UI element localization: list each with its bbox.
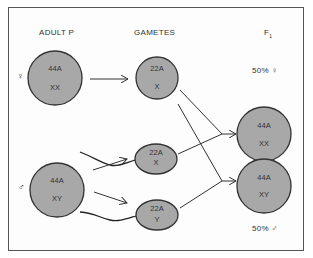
header-f1: F1	[264, 28, 272, 39]
percent-male: 50% ♂	[252, 224, 278, 233]
offspring-male-cell	[237, 159, 291, 213]
male-symbol-icon: ♂	[18, 182, 25, 192]
header-adult: ADULT P	[39, 28, 74, 37]
f1-subscript: 1	[269, 33, 272, 39]
sperm-x-sex-chromosome: X	[146, 158, 166, 167]
adult-female-sex-chromosomes: XX	[45, 83, 65, 92]
adult-female-cell	[28, 51, 82, 105]
line-egg-to-male	[178, 104, 222, 181]
header-gametes: GAMETES	[134, 28, 175, 37]
adult-male-autosomes: 44A	[47, 176, 67, 185]
offspring-female-cell	[237, 107, 291, 161]
egg-autosomes: 22A	[147, 64, 167, 73]
female-symbol-icon: ♀	[17, 71, 24, 81]
offspring-female-sex-chromosomes: XX	[254, 139, 274, 148]
sperm-x-autosomes: 22A	[146, 148, 166, 157]
offspring-male-autosomes: 44A	[254, 173, 274, 182]
line-sperm-y-to-male	[180, 181, 222, 208]
arrow-male-to-sperm-y	[94, 192, 127, 203]
egg-sex-chromosome: X	[147, 82, 167, 91]
sperm-y-autosomes: 22A	[147, 204, 167, 213]
line-sperm-x-to-female	[178, 134, 222, 154]
offspring-female-autosomes: 44A	[254, 121, 274, 130]
offspring-male-sex-chromosomes: XY	[254, 190, 274, 199]
adult-female-autosomes: 44A	[45, 64, 65, 73]
sperm-y-tail	[80, 212, 136, 221]
sperm-y-sex-chromosome: Y	[147, 215, 167, 224]
adult-male-cell	[30, 163, 84, 217]
line-egg-to-female	[180, 90, 222, 134]
percent-female: 50% ♀	[252, 66, 278, 75]
adult-male-sex-chromosomes: XY	[47, 194, 67, 203]
